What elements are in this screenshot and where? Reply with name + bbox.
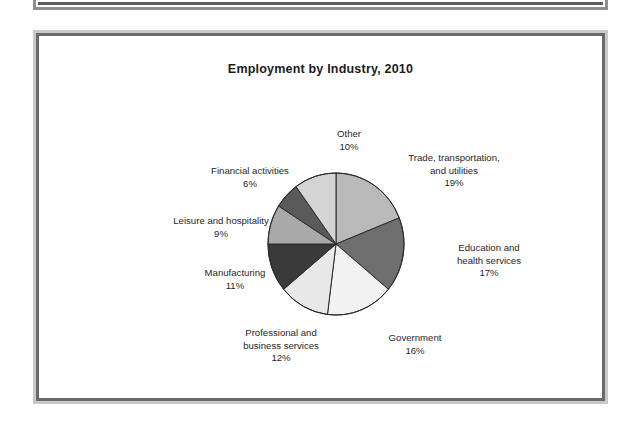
pie-label-trade-value: 19% [379, 177, 529, 190]
figure-inner-panel: Employment by Industry, 2010 Other 10% T… [36, 33, 605, 401]
pie-label-education-health-services: Education and health services 17% [427, 242, 551, 280]
pie-label-manufacturing-value: 11% [179, 280, 291, 293]
previous-figure-frame-fragment [33, 0, 608, 10]
pie-label-professional-value: 12% [213, 352, 349, 365]
pie-label-other: Other 10% [301, 128, 397, 153]
pie-label-manufacturing: Manufacturing 11% [179, 267, 291, 292]
pie-chart: Other 10% Trade, transportation, and uti… [39, 36, 602, 398]
pie-label-professional-name-line1: Professional and [213, 327, 349, 340]
pie-label-education-name-line1: Education and [427, 242, 551, 255]
pie-label-leisure-name: Leisure and hospitality [151, 215, 291, 228]
pie-label-other-name: Other [301, 128, 397, 141]
frame-fragment-rule [38, 2, 603, 5]
figure-outer-frame: Employment by Industry, 2010 Other 10% T… [33, 30, 608, 404]
pie-label-trade-name-line2: and utilities [379, 165, 529, 178]
pie-label-government-name: Government [355, 332, 475, 345]
pie-label-education-name-line2: health services [427, 255, 551, 268]
pie-label-government: Government 16% [355, 332, 475, 357]
pie-label-financial-name: Financial activities [185, 165, 315, 178]
pie-label-trade-transportation-utilities: Trade, transportation, and utilities 19% [379, 152, 529, 190]
pie-label-professional-name-line2: business services [213, 340, 349, 353]
pie-label-trade-name-line1: Trade, transportation, [379, 152, 529, 165]
pie-label-professional-business-services: Professional and business services 12% [213, 327, 349, 365]
pie-label-financial-value: 6% [185, 178, 315, 191]
pie-label-leisure-hospitality: Leisure and hospitality 9% [151, 215, 291, 240]
pie-label-manufacturing-name: Manufacturing [179, 267, 291, 280]
pie-label-government-value: 16% [355, 345, 475, 358]
pie-label-education-value: 17% [427, 267, 551, 280]
pie-label-leisure-value: 9% [151, 228, 291, 241]
pie-label-financial-activities: Financial activities 6% [185, 165, 315, 190]
